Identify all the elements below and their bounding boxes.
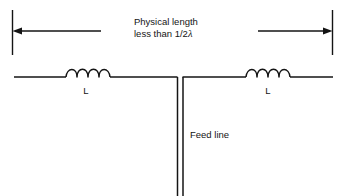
dimension-label-prefix: less than 1/ (134, 28, 183, 39)
inductor-coil-right (246, 69, 290, 77)
dimension-label-line-1: Physical length (134, 16, 198, 28)
dimension-label-line-2: less than 1/2λ (134, 28, 198, 40)
lambda-symbol: λ (188, 28, 193, 39)
inductor-label-right: L (258, 85, 278, 96)
feed-line-label: Feed line (190, 129, 229, 140)
inductor-label-left: L (76, 85, 96, 96)
dimension-arrowhead-right (323, 27, 333, 34)
dimension-label: Physical length less than 1/2λ (134, 16, 198, 39)
dimension-arrowhead-left (13, 27, 23, 34)
inductor-coil-left (66, 69, 110, 77)
antenna-diagram: Physical length less than 1/2λ L L Feed … (0, 0, 350, 196)
